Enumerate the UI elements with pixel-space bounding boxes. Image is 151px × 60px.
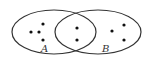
venn-diagram: A B <box>0 0 151 60</box>
set-a-only-dots <box>29 22 44 41</box>
set-a-label: A <box>40 43 48 54</box>
set-b-label: B <box>101 43 109 54</box>
set-b-ellipse <box>55 10 141 54</box>
set-b-only-dots <box>110 23 125 41</box>
intersection-dots <box>75 26 78 41</box>
set-a-ellipse <box>12 10 96 54</box>
